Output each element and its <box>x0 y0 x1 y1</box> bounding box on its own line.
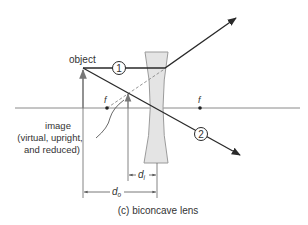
ray-1-label: 1 <box>116 63 122 74</box>
biconcave-lens-diagram: 1 2 f f object image (virtual, upright, … <box>0 0 308 225</box>
ray-2-label: 2 <box>198 129 204 140</box>
image-label-line-3: and reduced) <box>24 144 80 155</box>
focal-point-right <box>198 106 202 110</box>
focal-label-left: f <box>104 95 108 105</box>
object-label: object <box>69 54 96 65</box>
di-label: di <box>138 169 146 181</box>
figure-caption: (c) biconcave lens <box>118 205 199 216</box>
do-label: do <box>112 186 122 198</box>
focal-point-left <box>105 106 109 110</box>
image-label-line-1: image <box>45 120 71 131</box>
image-leader-line <box>96 100 124 138</box>
image-label-line-2: (virtual, upright, <box>17 132 82 143</box>
focal-label-right: f <box>198 95 202 105</box>
